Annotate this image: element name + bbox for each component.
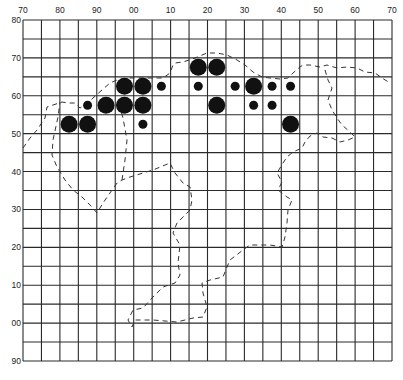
- small-dot-marker: [231, 82, 240, 91]
- x-tick-label: 70: [18, 5, 28, 15]
- small-dot-marker: [249, 101, 258, 110]
- large-dot-marker: [61, 116, 78, 133]
- y-tick-label: 20: [12, 242, 22, 252]
- x-tick-label: 70: [387, 5, 397, 15]
- x-tick-label: 20: [203, 5, 213, 15]
- large-dot-marker: [116, 97, 133, 114]
- small-dot-marker: [268, 82, 277, 91]
- dashed-boundary-path: [52, 70, 355, 327]
- x-tick-label: 90: [92, 5, 102, 15]
- x-tick-label: 40: [277, 5, 287, 15]
- grid-chart: 7080900010203040506070 80706050403020100…: [0, 0, 403, 380]
- y-tick-label: 00: [12, 318, 22, 328]
- x-tick-label: 60: [350, 5, 360, 15]
- large-dot-marker: [282, 116, 299, 133]
- small-dot-marker: [138, 120, 147, 129]
- large-dot-marker: [134, 97, 151, 114]
- y-tick-label: 60: [12, 91, 22, 101]
- y-tick-label: 70: [12, 53, 22, 63]
- x-tick-label: 30: [240, 5, 250, 15]
- x-axis-labels: 7080900010203040506070: [18, 5, 397, 15]
- large-dot-marker: [208, 97, 225, 114]
- y-tick-label: 50: [12, 129, 22, 139]
- large-dot-marker: [245, 78, 262, 95]
- small-dot-marker: [286, 82, 295, 91]
- y-tick-label: 90: [12, 356, 22, 366]
- large-dot-marker: [116, 78, 133, 95]
- x-tick-label: 00: [129, 5, 139, 15]
- y-axis-labels: 80706050403020100090: [12, 15, 22, 366]
- large-dot-marker: [79, 116, 96, 133]
- y-tick-label: 80: [12, 15, 22, 25]
- x-tick-label: 10: [166, 5, 176, 15]
- large-dot-marker: [98, 97, 115, 114]
- x-tick-label: 80: [55, 5, 65, 15]
- small-dot-marker: [268, 101, 277, 110]
- large-dot-marker: [208, 59, 225, 76]
- small-dot-marker: [157, 82, 166, 91]
- y-tick-label: 30: [12, 204, 22, 214]
- y-tick-label: 10: [12, 280, 22, 290]
- x-tick-label: 50: [313, 5, 323, 15]
- y-tick-label: 40: [12, 167, 22, 177]
- large-dot-marker: [190, 59, 207, 76]
- large-dot-marker: [134, 78, 151, 95]
- small-dot-marker: [83, 101, 92, 110]
- grid-lines: [23, 20, 392, 361]
- small-dot-marker: [194, 82, 203, 91]
